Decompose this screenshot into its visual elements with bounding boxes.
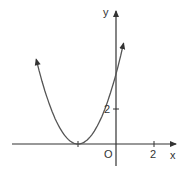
origin-label: O bbox=[104, 148, 113, 160]
x-tick-label-2: 2 bbox=[150, 148, 156, 160]
y-axis-label: y bbox=[103, 6, 109, 18]
parabola-graph: y x O 2 2 bbox=[0, 0, 186, 175]
x-axis-label: x bbox=[170, 149, 176, 161]
y-tick-label-2: 2 bbox=[104, 103, 110, 115]
parabola-curve bbox=[36, 43, 123, 144]
